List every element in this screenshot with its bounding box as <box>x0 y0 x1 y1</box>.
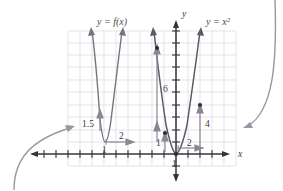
label-sq-origin: 1 <box>172 159 177 169</box>
label-sq-run-small: 2 <box>187 138 192 148</box>
label-f-vertex: 1 <box>102 145 107 155</box>
curve-label-left: y = f(x) <box>96 16 128 28</box>
label-f-big-rise: 6 <box>163 84 168 94</box>
label-sq-rise-big: 4 <box>205 119 210 129</box>
y-axis-label: y <box>181 9 187 19</box>
point-marker-left <box>163 131 167 135</box>
x-axis-label: x <box>237 149 243 159</box>
point-marker-right <box>198 103 202 107</box>
point-marker-origin <box>174 152 178 156</box>
figure-background <box>0 0 283 191</box>
point-marker-f-high <box>155 46 159 50</box>
curve-label-right: y = x² <box>205 16 231 27</box>
graph-canvas: y = f(x) y = x² y x 1.5 2 1 6 1 2 1 4 <box>0 0 283 191</box>
label-f-rise: 1.5 <box>82 119 94 129</box>
math-figure: y = f(x) y = x² y x 1.5 2 1 6 1 2 1 4 <box>0 0 283 191</box>
label-sq-rise-small: 1 <box>156 138 161 148</box>
label-f-run: 2 <box>119 131 124 141</box>
